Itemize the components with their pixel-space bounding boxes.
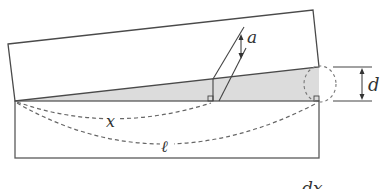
length-label: ℓ (161, 137, 168, 156)
thickness-label: d (368, 74, 380, 95)
angle-label: a (247, 27, 257, 47)
angle-arrow-head-down (239, 53, 244, 59)
air-wedge-diagram: a d x ℓ dx (0, 0, 389, 189)
position-label: x (106, 112, 115, 131)
d-arrow-head-down (360, 94, 365, 100)
d-arrow-head-up (360, 68, 365, 74)
bottom-caption: dx (302, 178, 323, 189)
